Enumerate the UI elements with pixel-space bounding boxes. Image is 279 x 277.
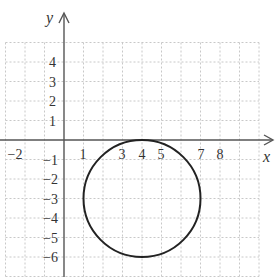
x-tick-label: 1 xyxy=(80,147,87,162)
x-tick-label: 3 xyxy=(119,147,126,162)
y-tick-label: −1 xyxy=(43,153,58,168)
y-tick-label: 4 xyxy=(49,55,56,70)
y-tick-label: −3 xyxy=(43,192,58,207)
y-tick-label: 2 xyxy=(49,94,56,109)
x-tick-label: −2 xyxy=(8,147,23,162)
y-tick-label: −4 xyxy=(43,211,58,226)
y-tick-label: −5 xyxy=(43,231,58,246)
coordinate-plane: y x −2 1 3 4 5 7 8 4 3 2 1 −1 −2 −3 −4 −… xyxy=(0,0,279,277)
y-axis-label: y xyxy=(44,9,54,27)
x-tick-label: 5 xyxy=(158,147,165,162)
y-tick-label: 1 xyxy=(49,114,56,129)
x-tick-label: 8 xyxy=(217,147,224,162)
y-tick-label: −6 xyxy=(43,250,58,265)
x-axis-label: x xyxy=(262,148,270,165)
x-tick-label: 7 xyxy=(198,147,205,162)
y-tick-label: −2 xyxy=(43,172,58,187)
y-tick-label: 3 xyxy=(49,75,56,90)
x-tick-label: 4 xyxy=(139,147,146,162)
